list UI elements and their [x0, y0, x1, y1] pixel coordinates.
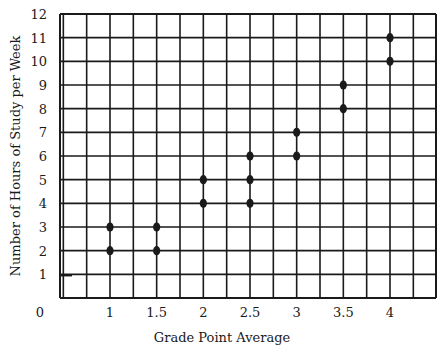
- x-tick-label: 3.5: [333, 305, 354, 320]
- data-point: [340, 104, 347, 113]
- scatter-chart: 123456789101112 011.522.533.54 Grade Poi…: [0, 0, 443, 352]
- y-tick-label: 9: [39, 78, 47, 93]
- x-axis-label: Grade Point Average: [154, 330, 291, 345]
- data-point: [200, 175, 207, 184]
- y-tick-label: 7: [39, 125, 47, 140]
- y-tick-label: 3: [39, 220, 47, 235]
- data-point: [153, 246, 160, 255]
- data-point: [200, 199, 207, 208]
- y-tick-label: 2: [39, 244, 47, 259]
- x-tick-label: 2: [199, 305, 207, 320]
- data-point: [106, 246, 113, 255]
- y-tick-label: 11: [30, 31, 47, 46]
- y-axis-label: Number of Hours of Study per Week: [8, 36, 23, 277]
- y-tick-label: 8: [39, 102, 47, 117]
- x-tick-label: 4: [386, 305, 394, 320]
- x-axis-ticks: 011.522.533.54: [36, 305, 394, 320]
- x-tick-label: 3: [293, 305, 301, 320]
- data-point: [246, 175, 253, 184]
- y-tick-label: 4: [39, 196, 47, 211]
- y-tick-label: 5: [39, 173, 47, 188]
- y-tick-label: 12: [30, 7, 47, 22]
- y-tick-label: 1: [39, 267, 47, 282]
- data-point: [246, 199, 253, 208]
- data-point: [386, 33, 393, 42]
- y-tick-label: 6: [39, 149, 47, 164]
- y-axis-ticks: 123456789101112: [30, 7, 47, 282]
- data-point: [293, 151, 300, 160]
- data-point: [386, 57, 393, 66]
- x-tick-label: 1: [106, 305, 114, 320]
- data-point: [340, 80, 347, 89]
- y-tick-label: 10: [30, 54, 47, 69]
- x-tick-label: 1.5: [146, 305, 167, 320]
- x-tick-label: 2.5: [240, 305, 261, 320]
- data-point: [153, 222, 160, 231]
- data-point: [106, 222, 113, 231]
- data-point: [246, 151, 253, 160]
- x-tick-label: 0: [36, 305, 44, 320]
- data-point: [293, 128, 300, 137]
